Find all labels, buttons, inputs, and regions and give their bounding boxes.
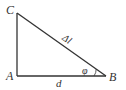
angle-arc-b	[94, 69, 96, 76]
triangle-diagram: C A B d Δl φ	[0, 0, 126, 90]
hypotenuse-label: Δl	[60, 31, 74, 46]
vertex-label-a: A	[5, 69, 14, 83]
angle-label-phi: φ	[82, 65, 88, 76]
edge-cb-hypotenuse	[17, 13, 106, 76]
base-label-d: d	[56, 77, 62, 89]
vertex-label-b: B	[109, 70, 117, 84]
vertex-label-c: C	[6, 3, 15, 17]
